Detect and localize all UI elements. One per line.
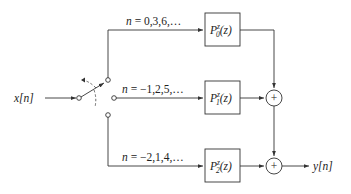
switch-contact-middle: [112, 96, 117, 101]
switch-contact-top: [106, 78, 111, 83]
adder-2: +: [266, 158, 309, 174]
branch-0-to-adder: [240, 30, 274, 88]
branch-0-wire: [108, 30, 203, 78]
adder-1-plus: +: [271, 92, 278, 104]
branch-1-condition: n = −1,2,5,…: [122, 83, 184, 96]
adder-1: +: [266, 90, 282, 156]
output-label: y[n]: [312, 160, 333, 173]
rotation-guide-dashed: [94, 90, 96, 107]
switch-arm: [81, 83, 104, 97]
branch-2-condition: n = −2,1,4,…: [122, 151, 184, 164]
branch-0: nn = 0,3,6,… = 0,3,6,… Pz0(z): [108, 13, 274, 88]
switch-contact-bottom: [106, 113, 111, 118]
polyphase-diagram: x[n] nn = 0,3,6,… = 0,3,6,… Pz0(z) n = −…: [0, 0, 351, 194]
branch-1: n = −1,2,5,… Pz1(z): [116, 81, 264, 114]
adder-2-plus: +: [271, 160, 278, 172]
branch-2: n = −2,1,4,… Pz2(z): [108, 117, 264, 182]
switch-pivot: [77, 96, 82, 101]
input-label: x[n]: [13, 92, 34, 104]
rotation-arrow-icon: [81, 78, 85, 83]
commutator-switch: [77, 78, 117, 118]
branch-0-condition: nn = 0,3,6,… = 0,3,6,…: [126, 15, 181, 28]
